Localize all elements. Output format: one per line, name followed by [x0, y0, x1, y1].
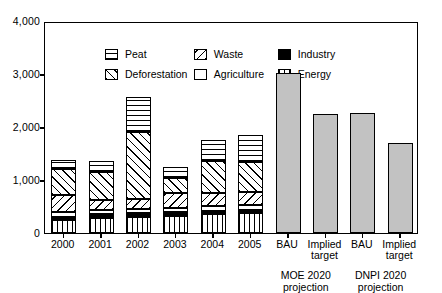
bar-segment-industry	[51, 217, 76, 220]
bar-segment-projection	[276, 73, 301, 233]
x-axis-group-label: DNPI 2020 projection	[333, 270, 429, 293]
legend-item-waste: Waste	[194, 49, 278, 60]
y-tick-label: 4,000	[0, 16, 40, 27]
bar-segment-peat	[201, 140, 226, 161]
bar-segment-energy	[89, 218, 114, 233]
legend-row: Peat Waste Industry	[105, 49, 355, 60]
legend-row: Deforestation Agriculture Energy	[105, 69, 355, 80]
legend-label-peat: Peat	[125, 49, 147, 60]
bar-segment-energy	[51, 220, 76, 233]
legend: Peat Waste Industry Deforestation	[105, 49, 355, 89]
bar-segment-waste	[51, 195, 76, 211]
x-tick-label: 2000	[44, 239, 81, 251]
x-tick-label: BAU	[343, 239, 380, 251]
bar-segment-deforestation	[51, 169, 76, 196]
bar-segment-waste	[126, 199, 151, 209]
x-tick-label: 2002	[119, 239, 156, 251]
bar-segment-waste	[89, 200, 114, 210]
bar-segment-energy	[201, 214, 226, 233]
bar[interactable]	[313, 114, 338, 233]
y-tick-label: 2,000	[0, 122, 40, 133]
bar-segment-industry	[201, 211, 226, 214]
bar-segment-industry	[163, 212, 188, 215]
bar[interactable]	[350, 113, 375, 233]
x-tick-label: 2005	[231, 239, 268, 251]
x-tick-label: 2003	[156, 239, 193, 251]
bar-segment-waste	[201, 193, 226, 206]
legend-label-industry: Industry	[298, 49, 335, 60]
bar-segment-peat	[163, 167, 188, 178]
bar-segment-deforestation	[163, 178, 188, 193]
bar-segment-peat	[89, 161, 114, 172]
x-tick-label: Implied target	[381, 239, 418, 261]
x-tick-label: 2001	[81, 239, 118, 251]
bar-segment-agriculture	[89, 210, 114, 215]
bar-segment-peat	[238, 135, 263, 162]
bar-segment-agriculture	[126, 209, 151, 214]
bar-segment-agriculture	[238, 205, 263, 210]
y-tick-label: 3,000	[0, 69, 40, 80]
bar-segment-agriculture	[51, 212, 76, 217]
bar-segment-waste	[163, 193, 188, 207]
bar-segment-waste	[238, 192, 263, 205]
bar-segment-industry	[126, 213, 151, 216]
bar-segment-agriculture	[201, 206, 226, 211]
y-tick-label: 0	[0, 228, 40, 239]
bar-segment-energy	[163, 216, 188, 233]
bar-segment-energy	[238, 213, 263, 233]
bar[interactable]	[126, 97, 151, 233]
legend-swatch-deforestation-icon	[105, 69, 118, 80]
bar-segment-industry	[89, 214, 114, 217]
legend-item-peat: Peat	[105, 49, 194, 60]
legend-label-energy: Energy	[298, 69, 331, 80]
bar-segment-deforestation	[201, 161, 226, 193]
x-axis: 200020012002200320042005BAUImplied targe…	[44, 234, 418, 293]
bar[interactable]	[201, 140, 226, 233]
bar[interactable]	[276, 73, 301, 233]
bar-segment-agriculture	[163, 208, 188, 213]
bar-segment-projection	[350, 113, 375, 233]
bar-segment-deforestation	[89, 172, 114, 200]
bar-segment-projection	[313, 114, 338, 233]
legend-label-agriculture: Agriculture	[214, 69, 264, 80]
legend-label-waste: Waste	[214, 49, 243, 60]
legend-swatch-waste-icon	[194, 49, 207, 60]
legend-label-deforestation: Deforestation	[125, 69, 187, 80]
legend-swatch-agriculture-icon	[194, 69, 207, 80]
x-tick-label: BAU	[268, 239, 305, 251]
legend-swatch-industry-icon	[278, 49, 291, 60]
bar-segment-deforestation	[126, 132, 151, 199]
plot-area: Peat Waste Industry Deforestation	[44, 22, 418, 234]
bar[interactable]	[51, 160, 76, 233]
x-tick-label: 2004	[194, 239, 231, 251]
bar[interactable]	[163, 167, 188, 233]
legend-item-agriculture: Agriculture	[194, 69, 278, 80]
y-tick-label: 1,000	[0, 175, 40, 186]
bar-segment-peat	[126, 97, 151, 131]
bar-segment-projection	[388, 143, 413, 233]
bar[interactable]	[388, 143, 413, 233]
bar[interactable]	[238, 135, 263, 233]
bar-segment-industry	[238, 210, 263, 213]
bar[interactable]	[89, 161, 114, 233]
bar-segment-deforestation	[238, 162, 263, 192]
y-axis: 4,0003,0002,0001,0000	[0, 0, 44, 293]
bar-segment-peat	[51, 160, 76, 169]
legend-item-deforestation: Deforestation	[105, 69, 194, 80]
x-tick-label: Implied target	[306, 239, 343, 261]
bar-segment-energy	[126, 217, 151, 233]
chart-container: 4,0003,0002,0001,0000 Peat Waste Industr…	[0, 0, 442, 293]
legend-swatch-peat-icon	[105, 49, 118, 60]
legend-item-industry: Industry	[278, 49, 355, 60]
